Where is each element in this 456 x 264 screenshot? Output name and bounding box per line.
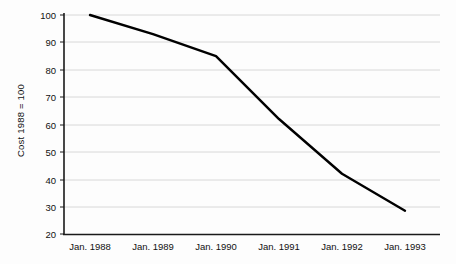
y-tick-label-60: 60 — [45, 120, 56, 131]
y-tick-label-30: 30 — [45, 202, 56, 213]
y-tick-label-100: 100 — [40, 10, 56, 21]
y-tick-label-80: 80 — [45, 65, 56, 76]
plot-area: 100 90 80 70 60 50 40 30 20 Jan. 1988 Ja… — [0, 0, 456, 264]
x-tick-label-jan-1993: Jan. 1993 — [384, 241, 426, 252]
y-tick-label-50: 50 — [45, 147, 56, 158]
x-tick-label-jan-1990: Jan. 1990 — [195, 241, 237, 252]
x-tick-label-jan-1991: Jan. 1991 — [258, 241, 300, 252]
y-tick-label-40: 40 — [45, 175, 56, 186]
y-tick-label-20: 20 — [45, 229, 56, 240]
x-tick-label-jan-1988: Jan. 1988 — [69, 241, 111, 252]
line-chart: Cost 1988 = 100 — [0, 0, 456, 264]
y-tick-label-90: 90 — [45, 37, 56, 48]
gridlines — [64, 15, 440, 207]
x-tick-label-jan-1989: Jan. 1989 — [132, 241, 174, 252]
y-tick-label-70: 70 — [45, 92, 56, 103]
series-line-cost-index — [90, 15, 405, 211]
x-tick-label-jan-1992: Jan. 1992 — [321, 241, 363, 252]
